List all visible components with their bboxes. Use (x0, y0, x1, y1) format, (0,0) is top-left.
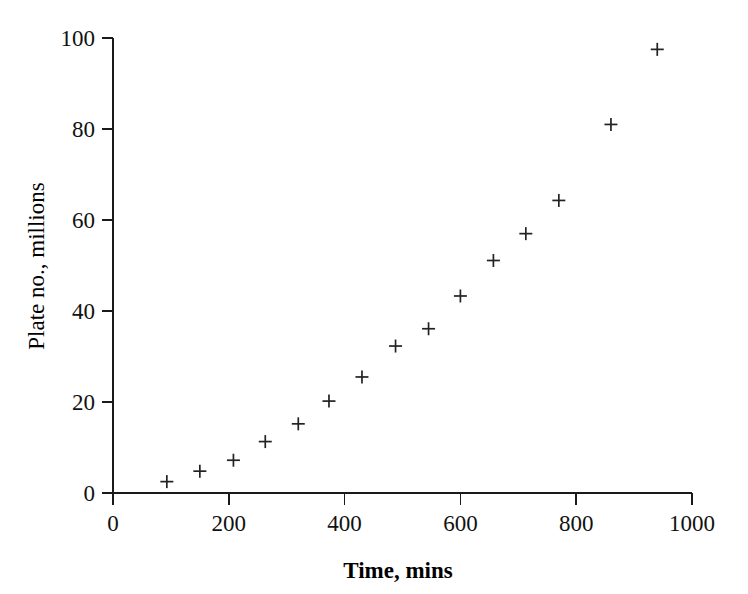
data-point (292, 417, 305, 430)
x-axis-ticks (113, 493, 692, 505)
x-axis-title: Time, mins (343, 558, 453, 583)
plot-area: 020406080100 02004006008001000 Time, min… (0, 0, 748, 594)
x-tick-label-400: 400 (327, 511, 362, 536)
y-tick-label-0: 0 (84, 481, 96, 506)
x-tick-label-0: 0 (107, 511, 119, 536)
data-point (519, 227, 532, 240)
data-point (651, 43, 664, 56)
data-point (422, 322, 435, 335)
y-axis-ticks (102, 38, 113, 493)
axes-group (113, 38, 692, 493)
y-axis-tick-labels: 020406080100 (61, 26, 96, 506)
x-axis-tick-labels: 02004006008001000 (107, 511, 715, 536)
data-point (160, 475, 173, 488)
data-point (454, 289, 467, 302)
data-point (227, 454, 240, 467)
data-point (389, 340, 402, 353)
data-point (259, 435, 272, 448)
x-tick-label-1000: 1000 (669, 511, 715, 536)
x-tick-label-800: 800 (559, 511, 594, 536)
data-point (552, 194, 565, 207)
y-tick-label-80: 80 (72, 117, 95, 142)
data-point (604, 118, 617, 131)
y-tick-label-60: 60 (72, 208, 95, 233)
data-point (322, 395, 335, 408)
y-axis-title: Plate no., millions (24, 182, 49, 349)
y-tick-label-20: 20 (72, 390, 95, 415)
data-point (193, 465, 206, 478)
scatter-chart: 020406080100 02004006008001000 Time, min… (0, 0, 748, 594)
data-point (355, 370, 368, 383)
y-tick-label-40: 40 (72, 299, 95, 324)
y-tick-label-100: 100 (61, 26, 96, 51)
x-tick-label-200: 200 (212, 511, 247, 536)
data-point-markers (160, 43, 663, 488)
x-tick-label-600: 600 (443, 511, 478, 536)
data-point (487, 254, 500, 267)
